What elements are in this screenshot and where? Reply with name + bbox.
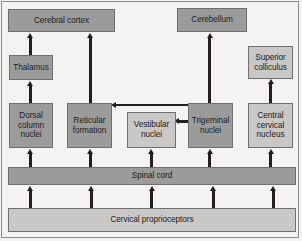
arrow-trigeminal-nuclei-to-vestibular-nuclei: [179, 120, 188, 123]
arrow-trigeminal-nuclei-to-cerebellum: [208, 38, 211, 103]
arrow-dorsal-column-nuclei-to-thalamus: [29, 86, 32, 103]
arrow-central-cervical-nucleus-to-superior-colliculus: [269, 84, 272, 103]
node-label-cerebral-cortex: Cerebral cortex: [34, 16, 89, 26]
arrow-spinalcord-to-trigeminal-nuclei: [208, 154, 211, 167]
node-cerebellum[interactable]: Cerebellum: [177, 8, 247, 32]
node-cervical-proprioceptors[interactable]: Cervical proprioceptors: [8, 208, 296, 232]
node-trigeminal-nuclei[interactable]: Trigeminal nuclei: [188, 103, 233, 148]
pathway-diagram: Cerebral cortex Cerebellum Thalamus Supe…: [0, 0, 302, 241]
node-label-cerebellum: Cerebellum: [191, 15, 232, 25]
node-label-vestibular-nuclei-line1: Vestibular: [134, 120, 169, 130]
node-vestibular-nuclei[interactable]: Vestibular nuclei: [127, 112, 176, 148]
node-central-cervical-nucleus[interactable]: Central cervical nucleus: [248, 103, 293, 148]
node-label-vestibular-nuclei-line2: nuclei: [141, 130, 162, 140]
node-reticular-formation[interactable]: Reticular formation: [67, 103, 112, 148]
node-label-superior-colliculus-line2: colliculus: [254, 63, 287, 73]
node-label-reticular-formation-line1: Reticular: [74, 116, 106, 126]
arrow-spinalcord-to-central-cervical-nucleus: [269, 154, 272, 167]
arrow-proprioceptors-to-spinalcord-2: [90, 191, 93, 208]
arrow-proprioceptors-to-spinalcord-3: [150, 191, 153, 208]
node-superior-colliculus[interactable]: Superior colliculus: [248, 46, 293, 79]
arrow-proprioceptors-to-spinalcord-1: [29, 191, 32, 208]
node-label-dorsal-column-nuclei-line3: nuclei: [20, 130, 41, 140]
node-label-superior-colliculus-line1: Superior: [255, 53, 286, 63]
node-spinal-cord[interactable]: Spinal cord: [8, 167, 296, 185]
node-label-central-cervical-nucleus-line3: nucleus: [257, 130, 285, 140]
node-label-cervical-proprioceptors: Cervical proprioceptors: [110, 215, 193, 225]
node-label-trigeminal-nuclei-line2: nuclei: [200, 126, 221, 136]
arrow-spinalcord-to-reticular-formation: [89, 154, 92, 167]
node-label-reticular-formation-line2: formation: [73, 126, 107, 136]
node-label-thalamus: Thalamus: [13, 63, 49, 73]
node-label-trigeminal-nuclei-line1: Trigeminal: [192, 116, 229, 126]
arrow-reticular-formation-to-cerebral-cortex: [89, 38, 92, 103]
arrow-thalamus-to-cerebral-cortex: [29, 38, 32, 55]
node-label-spinal-cord: Spinal cord: [132, 171, 172, 181]
node-label-dorsal-column-nuclei-line1: Dorsal: [19, 111, 42, 121]
node-cerebral-cortex[interactable]: Cerebral cortex: [8, 9, 115, 32]
node-label-central-cervical-nucleus-line1: Central: [257, 111, 283, 121]
arrow-proprioceptors-to-spinalcord-5: [272, 191, 275, 208]
node-label-central-cervical-nucleus-line2: cervical: [257, 121, 284, 131]
node-label-dorsal-column-nuclei-line2: column: [18, 121, 44, 131]
arrow-proprioceptors-to-spinalcord-4: [212, 191, 215, 208]
node-dorsal-column-nuclei[interactable]: Dorsal column nuclei: [9, 103, 53, 148]
arrow-trigeminal-nuclei-to-reticular-formation: [116, 104, 188, 107]
node-thalamus[interactable]: Thalamus: [9, 55, 53, 80]
arrow-spinalcord-to-dorsal-column-nuclei: [29, 154, 32, 167]
arrow-spinalcord-to-vestibular-nuclei: [150, 154, 153, 167]
